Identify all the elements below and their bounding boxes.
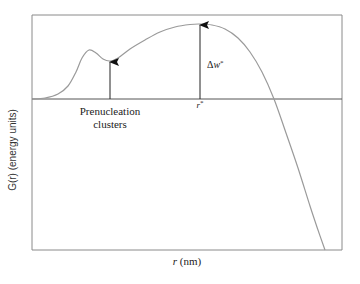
delta-w-star-label: Δw* [207, 59, 224, 70]
energy-diagram: Prenucleation clusters r* Δw* G(r) (ener… [0, 0, 360, 284]
prenucleation-label-line1: Prenucleation [80, 105, 141, 117]
y-axis-label: G(r) (energy units) [7, 109, 18, 191]
energy-curve [32, 24, 325, 250]
plot-frame [32, 15, 342, 250]
r-star-label: r* [196, 99, 204, 110]
x-axis-label: r (nm) [173, 255, 202, 268]
prenucleation-label-line2: clusters [93, 118, 127, 130]
